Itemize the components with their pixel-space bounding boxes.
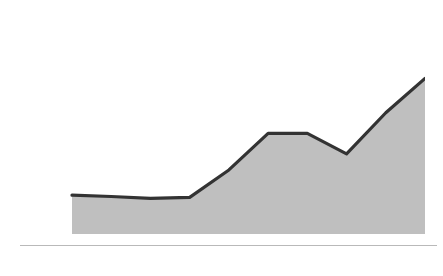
chart-container [0, 0, 443, 276]
area-fill [72, 78, 425, 234]
series-svg [60, 42, 425, 245]
plot-area [60, 42, 425, 245]
x-axis-line [20, 245, 437, 246]
